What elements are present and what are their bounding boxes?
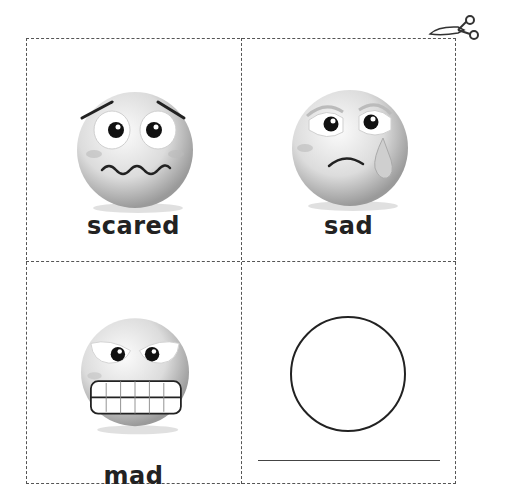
scared-face-icon bbox=[72, 88, 198, 214]
blank-circle-to-draw[interactable] bbox=[290, 316, 406, 432]
mad-face-icon bbox=[72, 311, 198, 437]
card-label: mad bbox=[26, 462, 241, 490]
card-label: scared bbox=[26, 212, 241, 240]
sad-face-icon bbox=[287, 86, 413, 212]
card-scared: scared bbox=[26, 38, 241, 261]
scissors-icon bbox=[428, 14, 480, 44]
emotion-cards-sheet: scared sad bbox=[26, 38, 456, 484]
card-sad: sad bbox=[241, 38, 456, 261]
label-write-line[interactable] bbox=[258, 460, 440, 461]
card-mad: mad bbox=[26, 261, 241, 484]
card-label: sad bbox=[241, 212, 456, 240]
card-blank-draw[interactable] bbox=[241, 261, 456, 484]
